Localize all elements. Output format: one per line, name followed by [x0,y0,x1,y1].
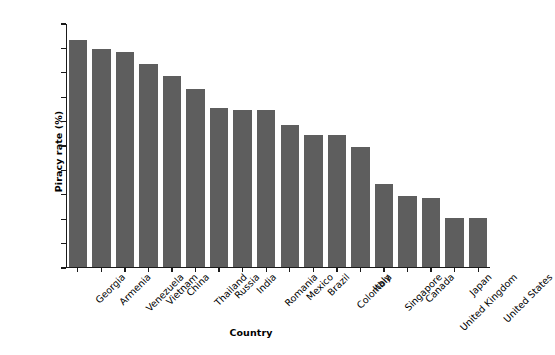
bar [281,125,299,267]
bar [210,108,228,267]
bar [69,40,87,267]
bar [116,52,134,267]
y-tick-30 [61,194,66,195]
bar [92,49,110,266]
y-tick-50 [61,145,66,146]
y-axis-line [66,24,67,268]
bar [375,184,393,267]
bar [328,135,346,267]
y-tick-10 [61,243,66,244]
bar [304,135,322,267]
bar [351,147,369,267]
bar [257,110,275,266]
y-axis-title: Piracy rate (%) [53,52,64,252]
y-tick-90 [61,48,66,49]
y-tick-100 [61,23,66,24]
y-tick-60 [61,121,66,122]
bar [445,218,463,267]
y-tick-20 [61,219,66,220]
y-tick-80 [61,72,66,73]
y-tick-70 [61,97,66,98]
bar [233,110,251,266]
x-axis-title: Country [0,327,502,338]
bar [163,76,181,266]
x-axis-line [66,267,490,268]
y-tick-0 [61,267,66,268]
bar [398,196,416,267]
bar [422,198,440,266]
bar [186,89,204,267]
bar [139,64,157,267]
plot-area: 0102030405060708090100 [66,24,490,268]
bar [469,218,487,267]
y-tick-40 [61,170,66,171]
